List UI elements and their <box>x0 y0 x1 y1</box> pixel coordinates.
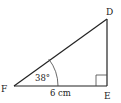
side-length-label: 6 cm <box>50 88 71 98</box>
right-angle-marker <box>96 75 107 86</box>
triangle-diagram: D E F 38° 6 cm <box>0 0 121 103</box>
side-fd-hypotenuse <box>14 19 107 86</box>
vertex-label-e: E <box>104 91 111 101</box>
angle-arc-f <box>49 59 58 86</box>
vertex-label-f: F <box>1 84 7 94</box>
angle-label: 38° <box>35 73 50 83</box>
vertex-label-d: D <box>106 7 113 17</box>
